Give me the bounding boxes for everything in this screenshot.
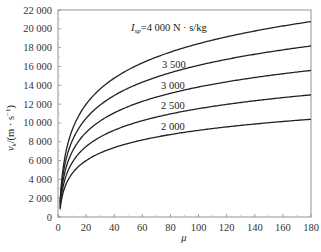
- y-tick-label: 8 000: [28, 136, 52, 147]
- chart-svg: 02 0004 0006 0008 00010 00012 00014 0001…: [0, 0, 321, 252]
- y-tick-label: 6 000: [28, 155, 52, 166]
- curve-label-3500: 3 500: [162, 59, 186, 70]
- x-tick-label: 160: [275, 222, 291, 233]
- x-axis-label: μ: [180, 232, 186, 243]
- y-tick-label: 10 000: [23, 117, 52, 128]
- x-tick-label: 180: [303, 222, 319, 233]
- y-tick-label: 2 000: [28, 193, 52, 204]
- y-tick-label: 16 000: [23, 61, 52, 72]
- curve-label-2500: 2 500: [161, 100, 185, 111]
- x-tick-label: 40: [109, 222, 120, 233]
- y-tick-label: 0: [47, 212, 52, 223]
- y-tick-label: 12 000: [23, 99, 52, 110]
- y-tick-label: 20 000: [23, 23, 52, 34]
- y-tick-label: 4 000: [28, 174, 52, 185]
- y-tick-label: 22 000: [23, 5, 52, 16]
- x-tick-label: 0: [55, 222, 60, 233]
- y-axis-label: vk/(m · s−1): [4, 104, 18, 151]
- plot-frame: [58, 10, 311, 217]
- y-axis-ticks: 02 0004 0006 0008 00010 00012 00014 0001…: [23, 5, 61, 223]
- curve-label-3000: 3 000: [161, 80, 185, 91]
- y-tick-label: 14 000: [23, 80, 52, 91]
- x-tick-label: 120: [219, 222, 235, 233]
- x-tick-label: 60: [137, 222, 148, 233]
- x-tick-label: 20: [81, 222, 92, 233]
- curve-label-2000: 2 000: [161, 121, 185, 132]
- x-tick-label: 80: [165, 222, 176, 233]
- x-tick-label: 140: [247, 222, 263, 233]
- y-tick-label: 18 000: [23, 42, 52, 53]
- x-tick-label: 100: [191, 222, 207, 233]
